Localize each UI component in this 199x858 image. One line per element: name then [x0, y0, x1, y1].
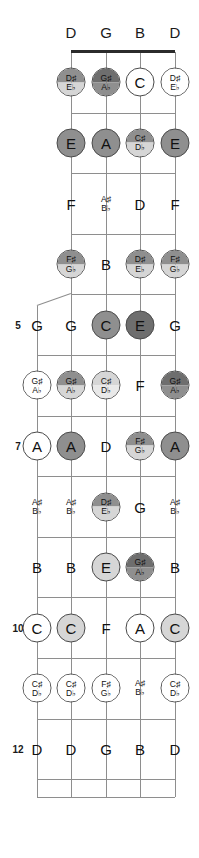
note-fret6-string1[interactable]: G♯A♭	[161, 371, 190, 400]
note-label: E	[135, 317, 145, 332]
note-label: A	[66, 438, 76, 453]
note-fret1-string2[interactable]: C	[126, 68, 155, 97]
note-fret6-string3[interactable]: C♯D♭	[92, 371, 121, 400]
note-label: G	[31, 317, 43, 332]
note-fret1-string3[interactable]: G♯A♭	[92, 68, 121, 97]
note-fret7-string3[interactable]: D	[101, 438, 112, 453]
note-fret2-string3[interactable]: A	[92, 128, 121, 157]
note-label: D♯E♭	[170, 73, 180, 91]
note-fret4-string2[interactable]: D♯E♭	[126, 250, 155, 279]
note-fret8-string2[interactable]: G	[134, 499, 146, 514]
note-label: E	[101, 560, 111, 575]
note-fret9-string4[interactable]: B	[66, 560, 76, 575]
note-fret1-string4[interactable]: D♯E♭	[57, 68, 86, 97]
note-fret11-string4[interactable]: C♯D♭	[57, 674, 86, 703]
note-flat-name: B♭	[170, 507, 180, 516]
note-fret4-string4[interactable]: F♯G♭	[57, 250, 86, 279]
note-fret6-string5[interactable]: G♯A♭	[23, 371, 52, 400]
note-fret5-string1[interactable]: G	[169, 317, 181, 332]
note-label: C	[135, 75, 146, 90]
note-fret8-string5[interactable]: A♯B♭	[32, 497, 42, 515]
note-fret3-string1[interactable]: F	[170, 196, 179, 211]
note-label: D♯E♭	[135, 255, 145, 273]
note-fret5-string3[interactable]: C	[92, 310, 121, 339]
note-fret4-string3[interactable]: B	[101, 257, 111, 272]
note-fret10-string3[interactable]: F	[101, 620, 110, 635]
note-flat-name: A♭	[135, 567, 145, 576]
note-fret5-string2[interactable]: E	[126, 310, 155, 339]
fret-line-3	[71, 234, 175, 235]
note-name: G	[134, 499, 146, 514]
note-name: E	[170, 135, 180, 150]
note-label: B	[101, 257, 111, 272]
note-label: C♯D♭	[135, 134, 145, 152]
note-label: G♯A♭	[32, 376, 43, 394]
note-fret3-string3[interactable]: A♯B♭	[101, 194, 111, 212]
note-fret10-string2[interactable]: A	[126, 613, 155, 642]
note-name: A	[66, 438, 76, 453]
note-fret7-string2[interactable]: F♯G♭	[126, 431, 155, 460]
fifth-string-diagonal	[37, 293, 71, 306]
note-fret10-string4[interactable]: C	[57, 613, 86, 642]
note-fret9-string1[interactable]: B	[170, 560, 180, 575]
fret-line-1	[71, 113, 175, 114]
note-fret5-string4[interactable]: G	[65, 317, 77, 332]
note-fret12-string4[interactable]: D	[66, 741, 77, 756]
note-fret8-string4[interactable]: A♯B♭	[66, 497, 76, 515]
note-name: E	[66, 135, 76, 150]
note-name: F	[170, 196, 179, 211]
note-fret10-string1[interactable]: C	[161, 613, 190, 642]
note-flat-name: A♭	[101, 82, 111, 91]
note-fret12-string2[interactable]: B	[135, 741, 145, 756]
note-fret9-string5[interactable]: B	[32, 560, 42, 575]
note-name: F	[66, 196, 75, 211]
note-fret6-string2[interactable]: F	[135, 378, 144, 393]
note-fret11-string5[interactable]: C♯D♭	[23, 674, 52, 703]
note-fret6-string4[interactable]: G♯A♭	[57, 371, 86, 400]
note-fret8-string1[interactable]: A♯B♭	[170, 497, 180, 515]
tailpiece-line	[37, 797, 175, 798]
note-fret2-string2[interactable]: C♯D♭	[126, 128, 155, 157]
note-name: A	[170, 438, 180, 453]
note-label: A	[135, 620, 145, 635]
note-fret1-string1[interactable]: D♯E♭	[161, 68, 190, 97]
note-name: C	[32, 620, 43, 635]
note-label: F	[66, 196, 75, 211]
note-label: E	[170, 135, 180, 150]
note-fret11-string3[interactable]: F♯G♭	[92, 674, 121, 703]
note-fret7-string5[interactable]: A	[23, 431, 52, 460]
note-label: C♯D♭	[66, 679, 76, 697]
fret-line-10	[37, 658, 175, 659]
note-fret8-string3[interactable]: D♯E♭	[92, 492, 121, 521]
note-fret12-string1[interactable]: D	[170, 741, 181, 756]
note-fret2-string1[interactable]: E	[161, 128, 190, 157]
note-label: A	[170, 438, 180, 453]
note-fret12-string5[interactable]: D	[32, 741, 43, 756]
note-fret7-string4[interactable]: A	[57, 431, 86, 460]
note-label: D	[66, 741, 77, 756]
note-fret2-string4[interactable]: E	[57, 128, 86, 157]
fret-line-7	[37, 476, 175, 477]
note-name: D	[170, 741, 181, 756]
note-fret3-string4[interactable]: F	[66, 196, 75, 211]
note-fret5-string5[interactable]: G	[31, 317, 43, 332]
note-fret11-string1[interactable]: C♯D♭	[161, 674, 190, 703]
note-name: B	[170, 560, 180, 575]
fret-line-5	[37, 355, 175, 356]
note-fret11-string2[interactable]: A♯B♭	[135, 679, 145, 697]
note-fret9-string3[interactable]: E	[92, 553, 121, 582]
note-fret10-string5[interactable]: C	[23, 613, 52, 642]
note-fret12-string3[interactable]: G	[100, 741, 112, 756]
note-fret9-string2[interactable]: G♯A♭	[126, 553, 155, 582]
note-name: C	[135, 75, 146, 90]
note-name: A	[135, 620, 145, 635]
note-fret3-string2[interactable]: D	[135, 196, 146, 211]
note-name: E	[135, 317, 145, 332]
note-name: D	[66, 741, 77, 756]
fret-line-12	[37, 779, 175, 780]
note-fret4-string1[interactable]: F♯G♭	[161, 250, 190, 279]
note-flat-name: E♭	[66, 82, 76, 91]
note-fret7-string1[interactable]: A	[161, 431, 190, 460]
note-label: D	[101, 438, 112, 453]
note-flat-name: G♭	[135, 446, 146, 455]
